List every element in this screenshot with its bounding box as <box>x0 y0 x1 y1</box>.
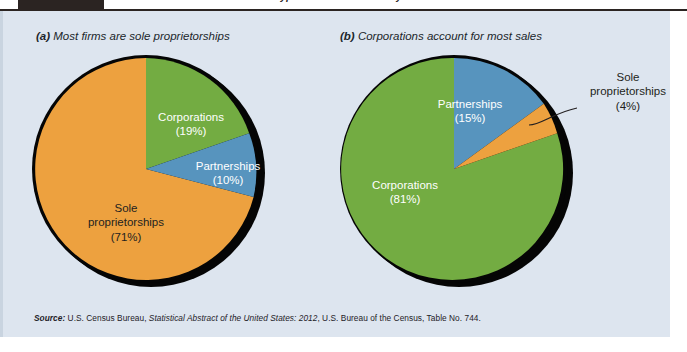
pie-a-label-corporations: Corporations (19%) <box>143 110 239 139</box>
pie-b-label-sole-line1: Sole <box>616 71 639 83</box>
chart-b-caption: (b) Corporations account for most sales <box>340 30 542 42</box>
source-label: Source: <box>34 313 65 323</box>
chart-b-caption-text: Corporations account for most sales <box>358 30 542 42</box>
pie-b-svg <box>340 55 578 293</box>
source-note: Source: U.S. Census Bureau, Statistical … <box>34 313 481 323</box>
pie-a-label-corporations-name: Corporations <box>158 111 224 123</box>
pie-a-label-sole-line1: Sole <box>114 202 137 214</box>
panel-left-edge <box>0 11 3 337</box>
figure-panel: (a) Most firms are sole proprietorships … <box>0 11 687 337</box>
chart-a-caption-text: Most firms are sole proprietorships <box>53 30 229 42</box>
pie-a-label-partnerships: Partnerships (10%) <box>177 159 279 188</box>
pie-b-label-corporations-pct: (81%) <box>355 192 455 206</box>
pie-b-label-partnerships-name: Partnerships <box>438 98 503 110</box>
page-header-strip: CHAPTER 4 Business types in the U.S. eco… <box>0 0 687 11</box>
header-title: Business types in the U.S. economy <box>230 0 402 2</box>
pie-b-sole-callout-leader-line <box>527 103 579 129</box>
pie-b-label-corporations-name: Corporations <box>372 179 438 191</box>
source-text-1: U.S. Census Bureau, <box>65 313 149 323</box>
pie-a-label-partnerships-pct: (10%) <box>177 173 279 187</box>
pie-chart-b <box>340 55 578 293</box>
chart-b-marker: (b) <box>340 30 355 42</box>
pie-a-label-sole-proprietorships: Sole proprietorships (71%) <box>62 201 190 244</box>
chart-a-marker: (a) <box>36 30 50 42</box>
pie-b-label-sole-proprietorships: Sole proprietorships (4%) <box>578 70 678 113</box>
pie-a-label-sole-line2: proprietorships <box>62 215 190 229</box>
pie-a-label-corporations-pct: (19%) <box>143 124 239 138</box>
pie-b-label-corporations: Corporations (81%) <box>355 178 455 207</box>
chapter-tab-label: CHAPTER 4 <box>22 0 75 1</box>
pie-a-label-sole-pct: (71%) <box>62 230 190 244</box>
pie-b-label-sole-line2: proprietorships <box>578 84 678 98</box>
pie-b-label-partnerships-pct: (15%) <box>422 111 518 125</box>
pie-b-label-partnerships: Partnerships (15%) <box>422 97 518 126</box>
chart-a-caption: (a) Most firms are sole proprietorships <box>36 30 230 42</box>
source-publication-title: Statistical Abstract of the United State… <box>149 313 318 323</box>
source-text-2: , U.S. Bureau of the Census, Table No. 7… <box>317 313 480 323</box>
pie-b-label-sole-pct: (4%) <box>578 99 678 113</box>
pie-a-label-partnerships-name: Partnerships <box>196 160 261 172</box>
panel-right-edge <box>670 11 687 337</box>
page-bottom-margin <box>0 337 687 352</box>
chapter-tab: CHAPTER 4 <box>18 0 104 9</box>
